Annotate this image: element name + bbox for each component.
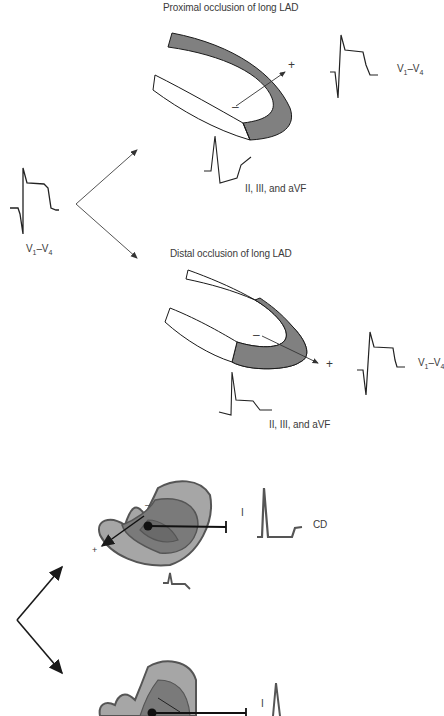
- proximal-inferior-leads-label: II, III, and aVF: [245, 183, 306, 194]
- source-ecg-trace: [10, 168, 59, 234]
- panel-b-bottom-lead-label: I: [261, 698, 264, 709]
- panel-b-top-lead-I-ecg: [257, 488, 302, 537]
- proximal-precordial-lead-label: V1–V4: [397, 63, 423, 76]
- distal-title: Distal occlusion of long LAD: [170, 248, 292, 259]
- panel-b-bottom-lead-I-ecg: [273, 683, 280, 716]
- panel-b-top-heart: [99, 481, 226, 565]
- proximal-title: Proximal occlusion of long LAD: [163, 2, 298, 13]
- panel-b-bottom-heart: [100, 661, 246, 716]
- proximal-vector-plus: +: [288, 58, 295, 72]
- source-lead-label: V1–V4: [26, 243, 52, 256]
- branch-arrows: [76, 150, 137, 258]
- proximal-inferior-ecg: [204, 136, 251, 183]
- panel-b-top-lead-label: I: [241, 507, 244, 518]
- proximal-ventricle-diagram: [153, 33, 292, 140]
- distal-precordial-lead-label: V1–V4: [418, 357, 444, 370]
- distal-vector-minus: –: [253, 328, 260, 342]
- panel-b-top-vector-minus: –: [145, 500, 150, 510]
- panel-b-top-vector-plus: +: [92, 545, 97, 555]
- panel-b-branch-arrows: [17, 567, 62, 673]
- proximal-vector-minus: –: [232, 100, 239, 114]
- distal-ventricle-diagram: [165, 270, 318, 369]
- distal-precordial-ecg: [357, 332, 405, 395]
- panel-b-top-segment-label: CD: [313, 519, 327, 530]
- panel-b-small-ecg: [163, 573, 190, 589]
- distal-vector-plus: +: [326, 357, 333, 371]
- proximal-precordial-ecg: [330, 35, 378, 98]
- distal-inferior-leads-label: II, III, and aVF: [269, 419, 330, 430]
- distal-inferior-ecg: [219, 372, 272, 415]
